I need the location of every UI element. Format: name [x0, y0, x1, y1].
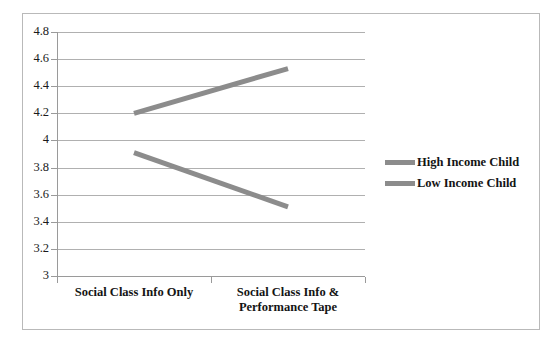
- data-series-layer: [57, 32, 365, 276]
- line-chart-figure: 4.84.64.44.243.83.63.43.23 Social Class …: [0, 0, 560, 344]
- y-axis-tick-label: 3: [5, 269, 49, 282]
- y-axis-tick: [51, 86, 58, 87]
- legend-color-swatch: [385, 181, 415, 186]
- y-axis-tick: [51, 140, 58, 141]
- chart-legend: High Income ChildLow Income Child: [385, 152, 535, 194]
- y-axis-tick-label: 4.6: [5, 52, 49, 65]
- x-axis-category-label: Social Class Info &Performance Tape: [211, 285, 365, 315]
- y-axis-tick: [51, 32, 58, 33]
- y-axis-tick-label: 4: [5, 133, 49, 146]
- y-axis-tick: [51, 222, 58, 223]
- y-axis-tick-label: 3.8: [5, 161, 49, 174]
- y-axis-tick-label: 3.6: [5, 188, 49, 201]
- y-axis-tick: [51, 113, 58, 114]
- y-axis-tick-labels: 4.84.64.44.243.83.63.43.23: [0, 0, 49, 344]
- y-axis-tick: [51, 249, 58, 250]
- series-line: [134, 153, 288, 207]
- y-axis-tick: [51, 59, 58, 60]
- series-line: [134, 69, 288, 114]
- x-axis-label-line: Performance Tape: [211, 300, 365, 315]
- x-axis-tick: [211, 277, 212, 283]
- x-axis-category-labels: Social Class Info OnlySocial Class Info …: [57, 285, 365, 329]
- legend-item: High Income Child: [385, 152, 535, 173]
- x-axis-tick: [57, 277, 58, 283]
- y-axis-tick: [51, 168, 58, 169]
- legend-label: High Income Child: [417, 155, 519, 170]
- legend-label: Low Income Child: [417, 176, 516, 191]
- y-axis-tick-label: 4.2: [5, 106, 49, 119]
- x-axis-tick: [365, 277, 366, 283]
- legend-color-swatch: [385, 160, 415, 165]
- y-axis-tick-label: 4.4: [5, 79, 49, 92]
- legend-item: Low Income Child: [385, 173, 535, 194]
- x-axis-label-line: Social Class Info Only: [57, 285, 211, 300]
- x-axis-label-line: Social Class Info &: [211, 285, 365, 300]
- x-axis-category-label: Social Class Info Only: [57, 285, 211, 300]
- y-axis-tick-label: 4.8: [5, 25, 49, 38]
- y-axis-tick-label: 3.4: [5, 215, 49, 228]
- y-axis-tick: [51, 195, 58, 196]
- y-axis-tick-label: 3.2: [5, 242, 49, 255]
